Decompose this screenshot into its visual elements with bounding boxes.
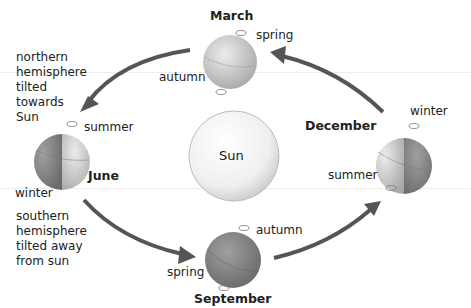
seasons-diagram: Sun March spring autumn June summer wint…	[0, 0, 471, 308]
note-northern-hemisphere: northern hemisphere tilted towards Sun	[16, 50, 87, 125]
label-september-spring: spring	[167, 265, 204, 280]
globe-march	[203, 31, 257, 95]
label-september-autumn: autumn	[256, 223, 303, 238]
arrow-june-to-september	[84, 200, 196, 264]
month-december: December	[305, 118, 376, 133]
label-june-winter: winter	[15, 186, 53, 201]
globe-december	[372, 124, 436, 199]
globe-september	[205, 226, 261, 291]
note-southern-hemisphere: southern hemisphere tilted away from sun	[16, 209, 87, 269]
label-march-spring: spring	[256, 28, 293, 43]
month-june: June	[88, 168, 119, 183]
sun-label: Sun	[219, 148, 244, 163]
label-june-summer: summer	[84, 120, 134, 135]
label-december-winter: winter	[410, 104, 448, 119]
label-march-autumn: autumn	[159, 70, 206, 85]
month-september: September	[194, 291, 272, 306]
label-december-summer: summer	[328, 168, 378, 183]
arrow-december-to-march	[270, 46, 383, 112]
month-march: March	[210, 8, 253, 23]
